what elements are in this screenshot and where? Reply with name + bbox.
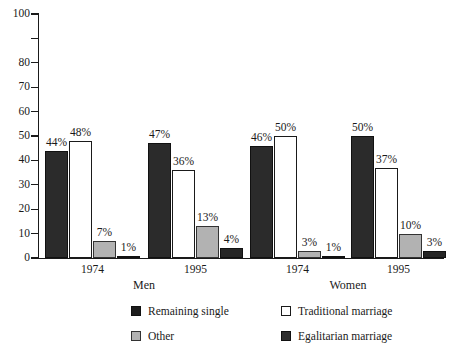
x-axis-group-label: Men	[104, 279, 184, 291]
y-axis-tick-label: 20	[0, 203, 30, 214]
y-axis-tick	[31, 87, 38, 88]
bar-value-label: 47%	[142, 129, 177, 141]
legend-swatch	[281, 331, 291, 341]
bar	[45, 151, 68, 258]
bar-value-label: 10%	[393, 220, 428, 232]
legend-item: Traditional marriage	[281, 305, 392, 317]
y-axis-tick	[31, 13, 38, 14]
y-axis-tick	[31, 160, 38, 161]
y-axis-tick	[31, 38, 38, 39]
bar	[375, 168, 398, 258]
bar-value-label: 4%	[214, 234, 249, 246]
x-axis-year-label: 1995	[369, 263, 429, 275]
legend-item: Egalitarian marriage	[281, 330, 392, 342]
y-axis-tick-label: 100	[0, 8, 30, 19]
bar-value-label: 3%	[417, 237, 452, 249]
bar	[220, 248, 243, 258]
legend-swatch	[281, 306, 291, 316]
bar-value-label: 1%	[316, 242, 351, 254]
y-axis-tick-label: 80	[0, 57, 30, 68]
y-axis-tick	[31, 184, 38, 185]
y-axis-tick	[31, 111, 38, 112]
bar	[69, 141, 92, 258]
bar	[322, 256, 345, 259]
legend-item: Other	[131, 330, 174, 342]
chart-legend: Remaining singleTraditional marriageOthe…	[131, 305, 431, 351]
legend-label: Remaining single	[148, 305, 229, 317]
bar-value-label: 50%	[345, 122, 380, 134]
bar-chart: 01020304050607080100 44%48%7%1%47%36%13%…	[0, 0, 462, 360]
y-axis-tick-label: 40	[0, 154, 30, 165]
bar-value-label: 7%	[87, 227, 122, 239]
y-axis-tick	[31, 233, 38, 234]
bar-value-label: 37%	[369, 154, 404, 166]
y-axis-tick	[31, 135, 38, 136]
x-axis-year-label: 1974	[63, 263, 123, 275]
x-axis-year-label: 1995	[166, 263, 226, 275]
bar-value-label: 1%	[111, 242, 146, 254]
legend-item: Remaining single	[131, 305, 229, 317]
y-axis-tick	[31, 209, 38, 210]
bar	[423, 251, 446, 258]
y-axis-tick-label: 60	[0, 106, 30, 117]
bar-value-label: 50%	[268, 122, 303, 134]
bar-value-label: 48%	[63, 127, 98, 139]
x-axis-year-label: 1974	[268, 263, 328, 275]
y-axis-tick-label: 30	[0, 179, 30, 190]
bar	[117, 256, 140, 259]
legend-swatch	[131, 306, 141, 316]
bar	[250, 146, 273, 258]
y-axis-tick-label: 70	[0, 81, 30, 92]
y-axis-tick-label: 0	[0, 252, 30, 263]
x-axis-group-label: Women	[308, 279, 388, 291]
y-axis-tick	[31, 257, 38, 258]
x-axis-line	[38, 258, 444, 259]
legend-label: Traditional marriage	[298, 305, 392, 317]
y-axis-tick-label: 50	[0, 130, 30, 141]
legend-swatch	[131, 331, 141, 341]
bar-value-label: 13%	[190, 212, 225, 224]
legend-label: Egalitarian marriage	[298, 330, 392, 342]
y-axis-tick-label: 10	[0, 228, 30, 239]
bar-value-label: 36%	[166, 156, 201, 168]
legend-label: Other	[148, 330, 174, 342]
y-axis-tick	[31, 62, 38, 63]
